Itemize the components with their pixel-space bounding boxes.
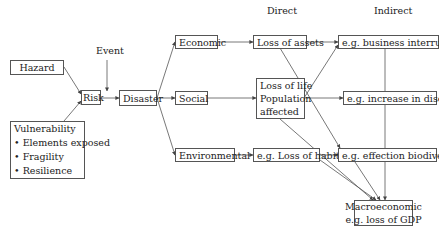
- vulnerability-title: Vulnerability: [14, 122, 76, 136]
- hazard-node: Hazard: [10, 60, 64, 75]
- environmental-node: Environmental: [175, 148, 235, 162]
- disaster-node: Disaster: [119, 90, 157, 106]
- loss-of-life-line: Loss of life: [260, 79, 312, 92]
- loss-of-habitats-node: e.g. Loss of habitats: [253, 148, 320, 162]
- effection-biodiversity-node: e.g. effection biodiversity: [338, 148, 437, 162]
- event-label: Event: [96, 45, 124, 56]
- risk-node: Risk: [81, 90, 101, 105]
- macroeconomic-title: Macroeconomic: [345, 200, 422, 213]
- business-interruption-node: e.g. business interruption: [338, 35, 439, 49]
- vulnerability-node: Vulnerability Elements exposed Fragility…: [10, 121, 85, 179]
- disaster-impact-diagram: Direct Indirect Hazard Event Risk Disast…: [0, 0, 439, 233]
- indirect-header: Indirect: [374, 5, 412, 16]
- loss-of-life-line: Population: [260, 92, 311, 105]
- macroeconomic-example: e.g. loss of GDP: [345, 213, 421, 226]
- social-node: Social: [175, 91, 208, 105]
- loss-of-assets-node: Loss of assets: [253, 35, 307, 49]
- loss-of-life-line: affected: [260, 105, 299, 118]
- macroeconomic-node: Macroeconomic e.g. loss of GDP: [354, 200, 413, 226]
- increase-in-diseases-node: e.g. increase in diseases: [343, 91, 437, 105]
- direct-header: Direct: [267, 5, 297, 16]
- vulnerability-item: Resilience: [14, 164, 72, 178]
- vulnerability-item: Elements exposed: [14, 136, 110, 150]
- economic-node: Economic: [175, 35, 218, 49]
- loss-of-life-node: Loss of life Population affected: [256, 78, 305, 119]
- vulnerability-item: Fragility: [14, 150, 64, 164]
